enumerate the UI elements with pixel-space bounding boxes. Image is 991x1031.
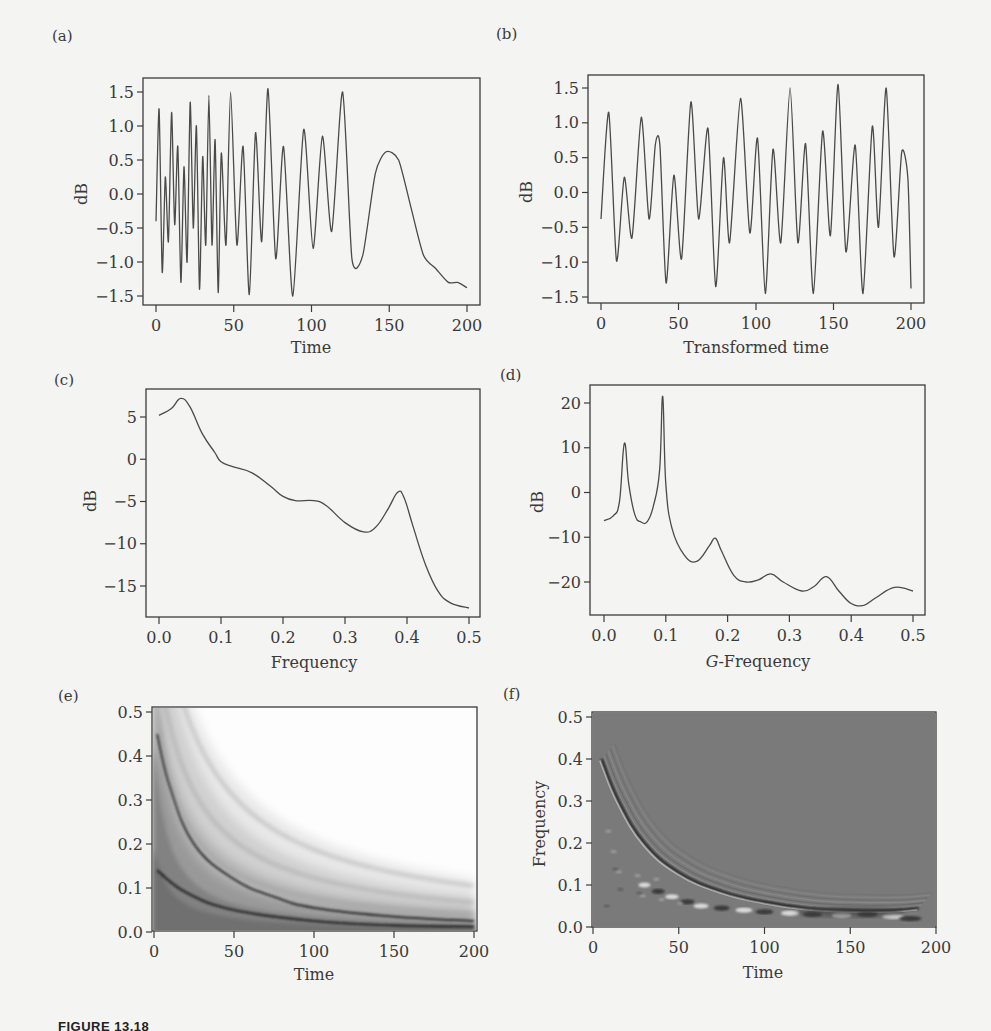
panel-a-ytick-label: 1.5 [109,83,134,102]
panel-f-ylabel: Frequency [530,781,549,868]
panel-f-ytick-label: 0.5 [558,708,583,727]
panel-d-xtick-label: 0.3 [777,626,802,645]
panel-d-ytick-label: 10 [561,438,581,457]
panel-e-x-axis: 050100150200 [149,931,489,961]
panel-a-ytick-label: 0.5 [109,151,134,170]
panel-b-xtick-label: 50 [668,314,688,333]
panel-f-xtick-label: 150 [835,938,866,957]
panel-f-ytick-label: 0.2 [558,834,583,853]
panel-c-ytick-label: −15 [103,577,137,596]
panel-e-xtick-label: 50 [224,942,244,961]
panel-d-y-axis: 20100−10−20 [547,394,590,592]
panel-f-xtick-label: 100 [749,938,780,957]
panel-a-xtick-label: 0 [151,316,161,335]
panel-a-time-series: 1.51.00.50.0−0.5−1.0−1.5050100150200 [95,78,482,335]
panel-b-xtick-label: 150 [818,314,849,333]
panel-a-xtick-label: 100 [296,316,327,335]
panel-b-ytick-label: 0.5 [554,148,579,167]
panel-f-heatmap [592,712,936,927]
panel-d-xlabel-italic: G [706,652,719,671]
panel-e-ytick-label: 0.1 [118,879,143,898]
panel-c-ytick-label: −10 [103,534,137,553]
panel-b-x-axis: 050100150200 [596,303,926,333]
panel-a-xlabel: Time [291,338,331,357]
figure-caption: FIGURE 13.18 [58,1019,149,1031]
panel-b-xtick-label: 200 [896,314,927,333]
panel-f-x-axis: 050100150200 [588,927,951,957]
panel-b-xtick-label: 0 [596,314,606,333]
panel-a-y-axis: 1.51.00.50.0−0.5−1.0−1.5 [95,83,143,306]
panel-c-line [159,398,469,608]
panel-c-xtick-label: 0.0 [146,628,171,647]
panel-c-ytick-label: 0 [127,450,137,469]
panel-d-xtick-label: 0.4 [838,626,863,645]
panel-a-x-axis: 050100150200 [151,305,482,335]
panel-a-ytick-label: 1.0 [109,117,134,136]
panel-b-ytick-label: 1.0 [554,113,579,132]
panel-c-xtick-label: 0.1 [208,628,233,647]
panel-a-ytick-label: −1.5 [95,287,134,306]
panel-b-ytick-label: 0.0 [554,183,579,202]
panel-a-xtick-label: 150 [374,316,405,335]
panel-f-ytick-label: 0.4 [558,750,583,769]
panel-f-xtick-label: 200 [921,938,952,957]
panel-d-xtick-label: 0.5 [900,626,925,645]
panel-c-ytick-label: −5 [113,492,137,511]
panel-b-ytick-label: 1.5 [554,79,579,98]
panel-f-xlabel: Time [743,963,783,982]
panel-c-xtick-label: 0.3 [332,628,357,647]
panel-a-xtick-label: 50 [224,316,244,335]
panel-c-xtick-label: 0.4 [394,628,419,647]
panel-e-ytick-label: 0.2 [118,835,143,854]
panel-d-ytick-label: 0 [571,483,581,502]
panel-e-time-frequency-original: 0.50.40.30.20.10.0050100150200 [118,688,490,961]
panel-e-ytick-label: 0.4 [118,747,143,766]
panel-b-xlabel: Transformed time [683,338,829,357]
panel-b-ytick-label: −1.5 [540,288,579,307]
panel-d-xtick-label: 0.1 [653,626,678,645]
panel-e-y-axis: 0.50.40.30.20.10.0 [118,703,152,942]
panel-f-tag: (f) [503,685,520,703]
panel-f-ytick-label: 0.1 [558,876,583,895]
panel-d-g-spectral-density: 20100−10−200.00.10.20.30.40.5 [547,385,925,645]
panel-b-xtick-label: 100 [741,314,772,333]
panel-a-line [156,89,467,296]
panel-d-ytick-label: −20 [547,573,581,592]
panel-c-spectral-density: 50−5−10−150.00.10.20.30.40.5 [103,389,481,647]
panel-c-y-axis: 50−5−10−15 [103,408,146,596]
panel-f-ytick-label: 0.3 [558,792,583,811]
panel-b-y-axis: 1.51.00.50.0−0.5−1.0−1.5 [540,79,588,307]
panel-b-frame [588,75,924,303]
panel-a-ytick-label: −1.0 [95,253,134,272]
panel-a-frame [143,78,480,305]
panel-a-ytick-label: −0.5 [95,219,134,238]
panel-f-time-frequency-transformed: 0.50.40.30.20.10.0050100150200 [558,708,952,958]
panel-b-ylabel: dB [517,181,536,203]
panel-d-line [604,396,913,606]
panel-a-xtick-label: 200 [452,316,483,335]
panel-c-x-axis: 0.00.10.20.30.40.5 [146,617,481,647]
panel-c-xtick-label: 0.5 [456,628,481,647]
panel-d-ytick-label: 20 [561,394,581,413]
panel-c-tag: (c) [54,371,74,389]
panel-b-tag: (b) [496,25,517,43]
panel-e-ytick-label: 0.5 [118,703,143,722]
panel-f-y-axis: 0.50.40.30.20.10.0 [558,708,592,937]
panel-e-xtick-label: 200 [459,942,490,961]
panel-e-ytick-label: 0.3 [118,791,143,810]
panel-e-tag: (e) [58,687,79,705]
panel-c-frame [146,389,480,617]
panel-b-ytick-label: −1.0 [540,253,579,272]
panel-e-xlabel: Time [294,965,334,984]
panel-b-transformed-series: 1.51.00.50.0−0.5−1.0−1.5050100150200 [540,75,926,333]
panel-c-xtick-label: 0.2 [270,628,295,647]
figure-canvas: 1.51.00.50.0−0.5−1.0−1.5050100150200 1.5… [0,0,991,1031]
panel-a-ytick-label: 0.0 [109,185,134,204]
panel-c-xlabel: Frequency [271,653,358,672]
panel-e-xtick-label: 0 [149,942,159,961]
panel-f-ytick-label: 0.0 [558,918,583,937]
panel-a-tag: (a) [52,27,73,45]
panel-c-ytick-label: 5 [127,408,137,427]
panel-d-xlabel: G-Frequency [706,652,811,671]
panel-d-x-axis: 0.00.10.20.30.40.5 [591,615,925,645]
